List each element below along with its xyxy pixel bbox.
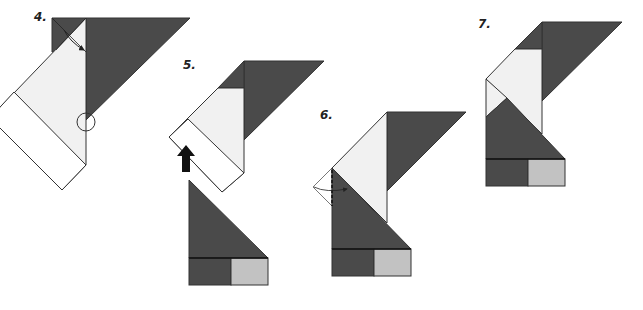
- step-7-bottom-gray-rect: [528, 159, 565, 186]
- step-5-dark-corner: [218, 61, 244, 88]
- step-4-dark-triangle: [86, 18, 190, 120]
- step-5-bottom-gray-rect: [231, 258, 268, 285]
- step-7-figure: [486, 22, 622, 186]
- step-6-dark-triangle: [387, 112, 466, 191]
- step-6-bottom-dark-rect: [332, 249, 374, 276]
- step-7-bottom-dark-rect: [486, 159, 528, 186]
- step-6-left-corner: [313, 168, 332, 206]
- step-5-figure: [169, 61, 324, 285]
- origami-diagram: [0, 0, 643, 310]
- step-4-figure: [0, 18, 190, 190]
- step-7-dark-corner: [515, 22, 542, 49]
- step-5-bottom-dark-triangle: [189, 180, 268, 258]
- step-6-bottom-gray-rect: [374, 249, 411, 276]
- step-6-figure: [313, 112, 466, 276]
- step-7-dark-triangle: [542, 22, 622, 101]
- step-5-bottom-dark-rect: [189, 258, 231, 285]
- step-5-dark-triangle: [244, 61, 324, 140]
